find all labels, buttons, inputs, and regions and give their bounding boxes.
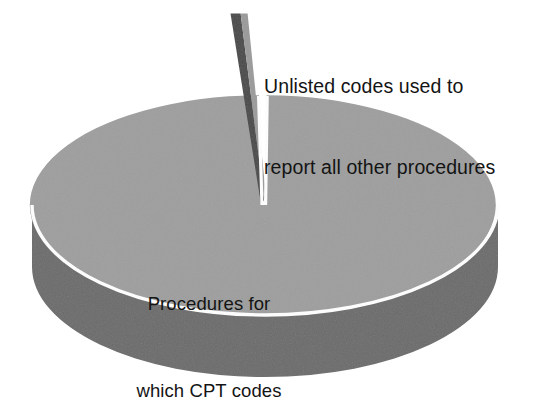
pie-chart-figure: Unlisted codes used to report all other … (0, 0, 538, 403)
callout-line-1: Unlisted codes used to (264, 73, 495, 100)
callout-line-2: report all other procedures (264, 154, 495, 181)
cpt-codes-exist-label: Procedures for which CPT codes exist (106, 231, 312, 403)
main-label-line-1: Procedures for (106, 289, 312, 318)
unlisted-codes-callout-label: Unlisted codes used to report all other … (264, 19, 495, 235)
main-label-line-2: which CPT codes (106, 376, 312, 403)
